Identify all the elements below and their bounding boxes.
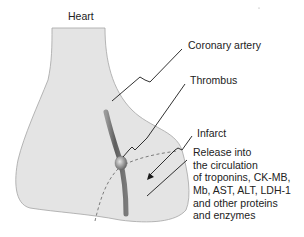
coronary-artery-label: Coronary artery bbox=[188, 39, 261, 52]
heart-shape bbox=[16, 28, 189, 222]
heart-label: Heart bbox=[68, 10, 94, 23]
release-line: of troponins, CK-MB, bbox=[193, 171, 291, 184]
release-line: the circulation bbox=[193, 159, 291, 172]
release-line: and other proteins bbox=[193, 197, 291, 210]
release-line: and enzymes bbox=[193, 209, 291, 222]
leader-coronary-artery bbox=[112, 49, 182, 101]
infarct-label: Infarct bbox=[197, 127, 226, 140]
release-label: Release into the circulation of troponin… bbox=[193, 146, 291, 222]
release-line: Release into bbox=[193, 146, 291, 159]
speck bbox=[258, 7, 259, 8]
thrombus-label: Thrombus bbox=[190, 74, 237, 87]
thrombus bbox=[115, 156, 127, 170]
release-line: Mb, AST, ALT, LDH-1 bbox=[193, 184, 291, 197]
